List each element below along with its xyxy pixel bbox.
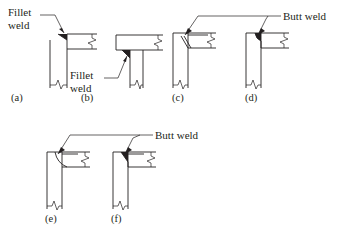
butt-weld-label-bottom: Butt weld — [155, 129, 199, 141]
butt-weld-leader-bottom — [58, 135, 153, 154]
detail-caption-f: (f) — [111, 213, 122, 225]
detail-a-weld-leader — [40, 15, 64, 33]
detail-caption-d: (d) — [245, 92, 258, 104]
detail-caption-e: (e) — [45, 213, 57, 225]
detail-caption-a: (a) — [11, 92, 23, 104]
butt-weld-leader-top — [185, 16, 281, 35]
fillet-weld-label-a-line2: weld — [8, 19, 30, 31]
fillet-weld-label-b-line1: Fillet — [70, 69, 93, 81]
detail-b-geometry — [116, 35, 163, 89]
weld-details-drawing: Fillet weld (a) Fillet weld (b) — [0, 0, 339, 231]
fillet-weld-label-a-line1: Fillet — [8, 6, 31, 18]
detail-b-weld-leader — [104, 56, 127, 78]
detail-f-geometry — [113, 152, 156, 210]
detail-e-geometry — [47, 152, 90, 210]
detail-c-geometry — [173, 33, 216, 89]
detail-caption-b: (b) — [81, 92, 94, 104]
detail-d-geometry — [246, 33, 289, 89]
butt-weld-label-top: Butt weld — [283, 10, 327, 22]
weld-details-figure: Fillet weld (a) Fillet weld (b) — [0, 0, 339, 231]
detail-caption-c: (c) — [172, 92, 184, 104]
